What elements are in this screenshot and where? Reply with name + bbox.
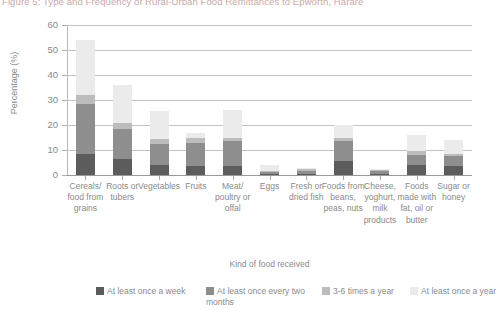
bar-segment (76, 154, 95, 175)
bar[interactable] (407, 135, 426, 175)
x-tick-mark (196, 176, 197, 180)
bar[interactable] (223, 110, 242, 175)
chart-legend: At least once a weekAt least once every … (60, 286, 460, 310)
legend-swatch (322, 287, 330, 295)
x-tick-mark (122, 176, 123, 180)
bar-segment (76, 40, 95, 95)
legend-label: At least once a week (107, 286, 185, 296)
x-tick-mark (85, 176, 86, 180)
bar-segment (150, 144, 169, 165)
y-tick-label: 40 (36, 70, 58, 79)
bar-segment (113, 129, 132, 159)
bar-segment (223, 166, 242, 175)
x-tick-mark (454, 176, 455, 180)
bar-segment (76, 95, 95, 104)
bar-segment (223, 141, 242, 166)
bar[interactable] (297, 168, 316, 175)
y-axis-title: Percentage (%) (9, 38, 19, 128)
bar-segment (113, 85, 132, 123)
bar-segment (297, 174, 316, 176)
y-tick-label: 10 (36, 145, 58, 154)
legend-item[interactable]: At least once a year (410, 286, 501, 297)
bars-layer (67, 25, 472, 175)
x-tick-mark (306, 176, 307, 180)
x-axis-title: Kind of food received (67, 259, 472, 269)
legend-item[interactable]: At least once a week (96, 286, 206, 297)
bar-segment (76, 104, 95, 154)
x-axis-labels: Cereals/ food from grainsRoots or tubers… (67, 181, 472, 253)
legend-swatch (206, 287, 214, 295)
y-tick-label: 30 (36, 95, 58, 104)
bar-segment (334, 141, 353, 161)
bar-segment (186, 166, 205, 175)
y-tick-label: 0 (36, 170, 58, 179)
bar-segment (186, 143, 205, 167)
bar[interactable] (150, 111, 169, 175)
y-tick-mark (62, 175, 67, 176)
bar-segment (444, 140, 463, 154)
bar-segment (444, 156, 463, 166)
bar[interactable] (370, 169, 389, 175)
bar-segment (334, 125, 353, 138)
x-tick-mark (380, 176, 381, 180)
legend-swatch (410, 287, 418, 295)
y-tick-label: 60 (36, 20, 58, 29)
bar-segment (334, 161, 353, 175)
legend-item[interactable]: 3-6 times a year (322, 286, 412, 297)
x-tick-mark (233, 176, 234, 180)
bar-segment (407, 165, 426, 175)
bar-segment (150, 111, 169, 139)
bar[interactable] (113, 85, 132, 175)
figure-title: Figure 5: Type and Frequency of Rural-Ur… (2, 0, 491, 7)
x-axis-label: Sugar or honey (432, 181, 476, 203)
bar-segment (407, 155, 426, 165)
bar-segment (150, 165, 169, 175)
bar[interactable] (76, 40, 95, 175)
legend-item[interactable]: At least once every two months (206, 286, 316, 308)
bar-segment (113, 159, 132, 175)
legend-swatch (96, 287, 104, 295)
bar[interactable] (334, 125, 353, 175)
x-tick-mark (270, 176, 271, 180)
bar-segment (223, 110, 242, 138)
bar-segment (260, 174, 279, 175)
legend-label: 3-6 times a year (333, 286, 394, 296)
bar[interactable] (444, 140, 463, 175)
y-tick-label: 50 (36, 45, 58, 54)
legend-label: At least once every two months (206, 286, 305, 307)
bar-segment (370, 174, 389, 176)
bar-segment (444, 166, 463, 175)
x-tick-mark (417, 176, 418, 180)
bar[interactable] (186, 133, 205, 176)
x-tick-mark (343, 176, 344, 180)
x-tick-mark (159, 176, 160, 180)
bar-segment (407, 135, 426, 151)
bar[interactable] (260, 165, 279, 175)
y-tick-label: 20 (36, 120, 58, 129)
legend-label: At least once a year (421, 286, 496, 296)
